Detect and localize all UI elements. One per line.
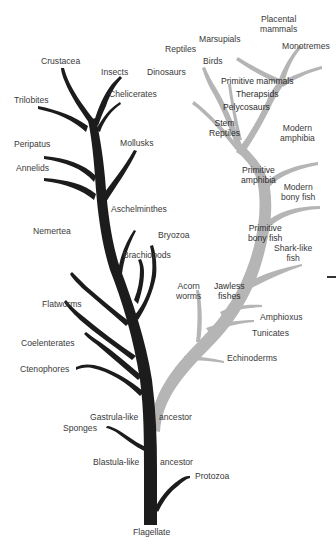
label-shark-like-fish: Shark-like fish [274,244,312,263]
label-trilobites: Trilobites [14,96,49,106]
protozoa-branch [155,476,190,512]
label-gastrula-ancestor: ancestor [159,413,192,423]
label-crustacea: Crustacea [41,57,80,67]
label-brachiopods: Brachiopods [123,251,171,261]
label-gastrula-like: Gastrula-like [90,413,138,423]
label-reptiles: Reptiles [165,45,196,55]
label-therapsids: Therapsids [236,90,279,100]
label-birds: Birds [203,57,223,67]
label-ctenophores: Ctenophores [20,365,69,375]
sponge-branch [106,426,148,452]
label-nemertea: Nemertea [33,227,71,237]
label-modern-amphibia: Modern amphibia [280,124,315,143]
label-marsupials: Marsupials [199,35,241,45]
label-primitive-mammals: Primitive mammals [221,77,294,87]
annelid-branch [44,178,96,200]
label-chelicerates: Chelicerates [109,90,157,100]
label-tunicates: Tunicates [252,329,289,339]
label-primitive-bony-fish: Primitive bony fish [248,224,282,243]
label-protozoa: Protozoa [195,472,229,482]
label-blastula-like: Blastula-like [93,458,139,468]
label-coelenterates: Coelenterates [21,339,75,349]
label-primitive-amphibia: Primitive amphibia [241,166,276,185]
label-bryozoa: Bryozoa [158,231,190,241]
brachiopod-branch [134,259,144,304]
peripatus-branch [44,156,96,182]
label-monotremes: Monotremes [282,42,330,52]
chordate-trunk [150,146,271,432]
label-modern-bony-fish: Modern bony fish [281,183,315,202]
tunicate-branch [206,320,254,334]
label-acorn-worms: Acorn worms [176,282,201,301]
label-blastula-ancestor: ancestor [160,458,193,468]
label-amphioxus: Amphioxus [260,313,303,323]
label-mollusks: Mollusks [120,139,153,149]
label-placental-mammals: Placental mammals [260,15,297,34]
label-stem-reptiles: Stem Reptiles [209,119,240,138]
label-sponges: Sponges [63,424,97,434]
label-pelycosaurs: Pelycosaurs [223,103,270,113]
label-echinoderms: Echinoderms [227,354,277,364]
edge-mark [327,276,336,278]
label-flagellate: Flagellate [133,528,170,538]
label-dinosaurs: Dinosaurs [147,68,186,78]
label-insects: Insects [101,68,128,78]
label-jawless-fishes: Jawless fishes [214,282,245,301]
insect-branch [94,76,122,126]
label-annelids: Annelids [16,164,49,174]
mollusk-branch [102,150,137,202]
label-flatworms: Flatworms [42,300,82,310]
label-aschelminthes: Aschelminthes [111,205,167,215]
label-peripatus: Peripatus [14,140,50,150]
